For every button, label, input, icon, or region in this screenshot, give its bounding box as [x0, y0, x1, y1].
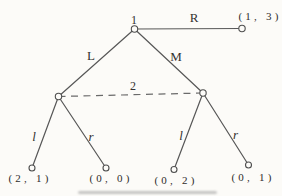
action-label-L: L [87, 48, 95, 63]
terminal-node-Ml [171, 167, 177, 173]
terminal-node-Ll [29, 165, 35, 171]
payoff-after-L-r: (0, 0) [89, 172, 132, 185]
edge-M-line [135, 29, 204, 93]
info-set-node-left [55, 93, 61, 99]
game-tree-svg: 1 2 R L M l r l r (1, 3) (2, 1) (0, 0) (… [0, 0, 282, 196]
edge-l-left-line [32, 97, 59, 169]
terminal-node-Mr [246, 162, 252, 168]
information-set-dashed-line [59, 93, 204, 97]
action-label-M: M [170, 49, 182, 64]
payoff-after-M-l: (0, 2) [154, 174, 197, 187]
edge-r-left-line [59, 97, 107, 169]
info-set-node-right [200, 90, 206, 96]
terminal-node-R [239, 25, 245, 31]
payoff-after-L-l: (2, 1) [8, 172, 51, 185]
edge-r-right-line [203, 93, 249, 165]
payoff-after-R: (1, 3) [238, 10, 281, 23]
edge-L-line [59, 29, 135, 97]
action-label-r-right: r [233, 127, 239, 142]
player2-info-set-label: 2 [130, 79, 136, 93]
terminal-node-Lr [103, 165, 109, 171]
game-tree-figure: 1 2 R L M l r l r (1, 3) (2, 1) (0, 0) (… [0, 0, 282, 196]
edge-R-line [135, 29, 243, 30]
action-label-r-left: r [88, 129, 94, 144]
action-label-l-right: l [179, 128, 183, 143]
action-label-R: R [190, 10, 199, 25]
player1-label: 1 [131, 13, 137, 27]
action-label-l-left: l [32, 129, 36, 144]
payoff-after-M-r: (0, 1) [231, 171, 274, 184]
cropped-caption-scan-artifact [78, 191, 217, 194]
